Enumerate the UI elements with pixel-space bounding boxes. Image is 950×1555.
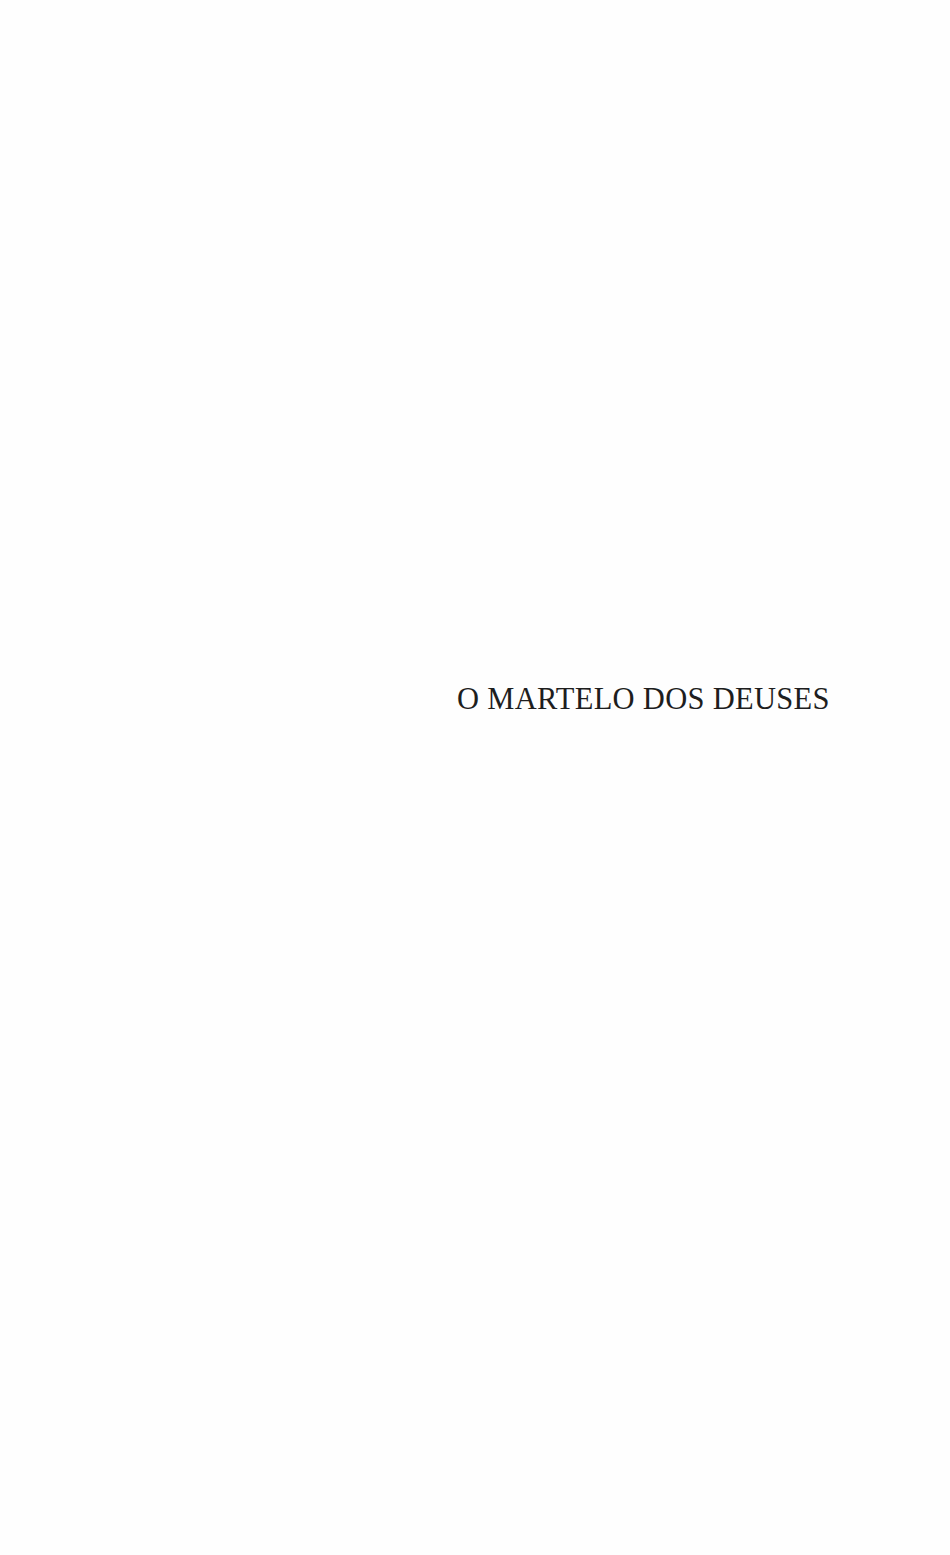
book-title: O MARTELO DOS DEUSES	[457, 679, 830, 719]
book-page: O MARTELO DOS DEUSES	[0, 0, 950, 1555]
